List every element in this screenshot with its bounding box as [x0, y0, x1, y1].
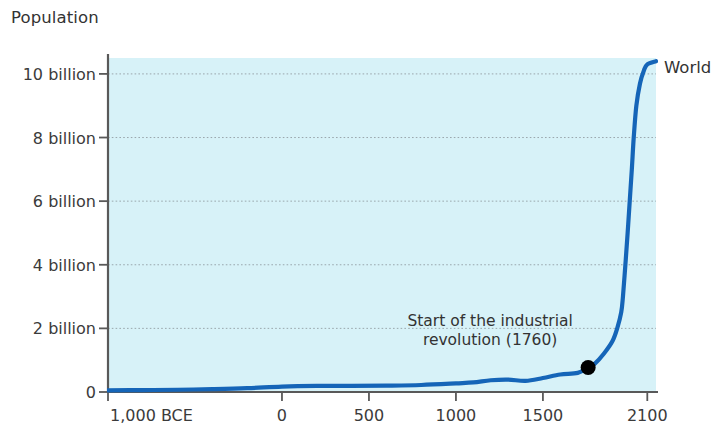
- y-tick-label: 4 billion: [0, 255, 96, 274]
- x-tick-label: 2100: [627, 406, 668, 425]
- x-tick-label: 500: [354, 406, 385, 425]
- x-axis-ticks: [108, 392, 647, 401]
- x-tick-label: 1000: [436, 406, 477, 425]
- x-tick-label: 1,000 BCE: [110, 406, 193, 425]
- y-tick-label: 8 billion: [0, 128, 96, 147]
- y-tick-label: 10 billion: [0, 64, 96, 83]
- annotation-industrial-revolution: Start of the industrial revolution (1760…: [400, 312, 580, 352]
- x-tick-label: 0: [277, 406, 287, 425]
- annotation-marker: [581, 360, 596, 375]
- y-tick-label: 6 billion: [0, 192, 96, 211]
- y-axis-ticks: [99, 74, 108, 392]
- series-label-world: World: [664, 58, 711, 77]
- y-tick-label: 2 billion: [0, 319, 96, 338]
- x-tick-label: 1500: [523, 406, 564, 425]
- industrial-revolution-marker-dot: [581, 360, 596, 375]
- y-tick-label: 0: [0, 383, 96, 402]
- y-axis-title: Population: [11, 8, 99, 27]
